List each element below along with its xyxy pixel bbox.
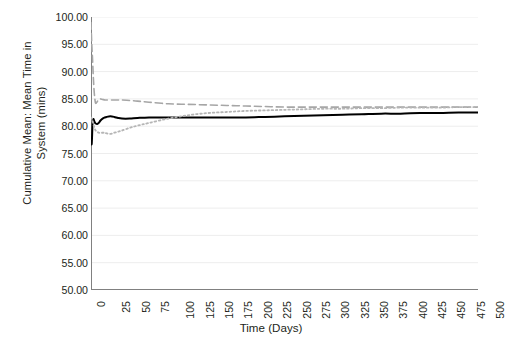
x-tick-label: 25	[120, 301, 132, 313]
x-tick-label: 175	[242, 301, 254, 319]
x-tick-label: 125	[203, 301, 215, 319]
x-tick-label: 500	[494, 301, 506, 319]
x-tick-label: 450	[455, 301, 467, 319]
x-tick-label: 225	[281, 301, 293, 319]
x-tick-label: 75	[159, 301, 171, 313]
x-tick-label: 400	[416, 301, 428, 319]
x-tick-label: 350	[378, 301, 390, 319]
x-tick-label: 375	[397, 301, 409, 319]
x-tick-label: 200	[261, 301, 273, 319]
x-tick-label: 300	[339, 301, 351, 319]
x-axis-title-text: Time (Days)	[240, 321, 303, 334]
x-tick-label: 50	[139, 301, 151, 313]
x-tick-label: 0	[95, 301, 107, 307]
x-tick-label: 275	[320, 301, 332, 319]
x-axis-title: Time (Days)	[0, 321, 496, 334]
x-tick-label: 475	[474, 301, 486, 319]
x-tick-label: 425	[436, 301, 448, 319]
x-tick-label: 325	[358, 301, 370, 319]
x-tick-label: 250	[300, 301, 312, 319]
x-tick-label: 100	[184, 301, 196, 319]
x-tick-label: 150	[223, 301, 235, 319]
